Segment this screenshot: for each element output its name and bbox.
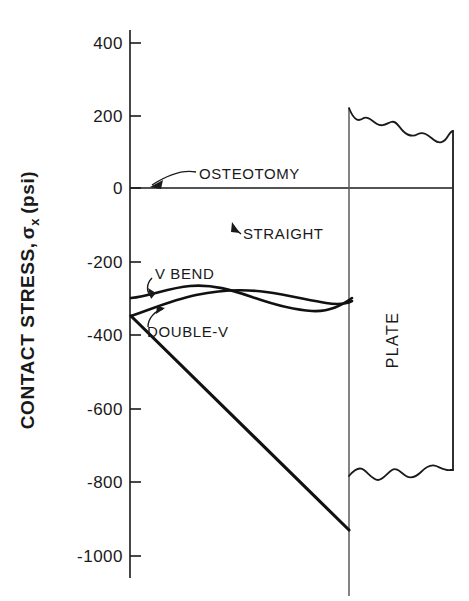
- y-axis-title: CONTACT STRESS,σx(psi): [17, 171, 42, 430]
- y-axis-tick-labels: 400 200 0 -200 -400 -600 -800 -1000: [77, 34, 123, 566]
- osteotomy-label: OSTEOTOMY: [199, 165, 300, 182]
- y-axis-title-subscript: x: [27, 218, 42, 226]
- v-bend-label: V BEND: [155, 265, 214, 282]
- tick-label-neg400: -400: [87, 326, 123, 345]
- plate-top-break-line: [349, 108, 453, 142]
- tick-label-neg600: -600: [87, 400, 123, 419]
- tick-label-neg200: -200: [87, 253, 123, 272]
- tick-label-400: 400: [93, 34, 123, 53]
- y-axis-title-units: (psi): [17, 171, 38, 214]
- tick-label-neg1000: -1000: [77, 547, 123, 566]
- tick-label-200: 200: [93, 107, 123, 126]
- annotation-osteotomy: OSTEOTOMY: [150, 165, 300, 189]
- y-axis-ticks: [130, 43, 141, 556]
- tick-label-0: 0: [113, 179, 123, 198]
- stress-chart: 400 200 0 -200 -400 -600 -800 -1000 CONT…: [0, 0, 469, 601]
- plate-label-text: PLATE: [384, 312, 401, 369]
- y-axis-title-main: CONTACT STRESS,: [17, 242, 38, 429]
- plate-label: PLATE: [384, 312, 401, 369]
- straight-label: STRAIGHT: [243, 225, 324, 242]
- double-v-arrow-head: [156, 306, 165, 314]
- plate-region: PLATE: [349, 108, 453, 596]
- annotation-straight: STRAIGHT: [231, 222, 324, 242]
- y-axis-title-text: CONTACT STRESS,σx(psi): [17, 171, 42, 430]
- plate-bottom-break-line: [349, 465, 453, 480]
- figure-root: 400 200 0 -200 -400 -600 -800 -1000 CONT…: [0, 0, 469, 601]
- annotation-double-v: DOUBLE-V: [147, 306, 229, 340]
- tick-label-neg800: -800: [87, 473, 123, 492]
- double-v-label: DOUBLE-V: [147, 323, 229, 340]
- curve-straight: [131, 316, 349, 530]
- y-axis-title-sigma: σ: [17, 226, 38, 240]
